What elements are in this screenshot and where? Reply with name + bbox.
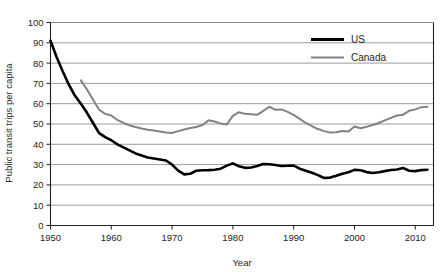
y-tick-label-0: 0 <box>38 220 43 231</box>
legend-label-canada: Canada <box>351 52 386 63</box>
y-tick-label-40: 40 <box>33 139 44 150</box>
y-tick-label-20: 20 <box>33 179 44 190</box>
y-tick-label-10: 10 <box>33 200 44 211</box>
x-tick-label-1980: 1980 <box>222 232 243 243</box>
y-tick-label-100: 100 <box>28 17 44 28</box>
x-tick-label-1960: 1960 <box>101 232 122 243</box>
y-tick-label-30: 30 <box>33 159 44 170</box>
legend-label-us: US <box>351 34 365 45</box>
x-tick-label-2000: 2000 <box>344 232 365 243</box>
x-tick-label-1990: 1990 <box>283 232 304 243</box>
transit-trips-line-chart: 0102030405060708090100 19501960197019801… <box>0 0 447 272</box>
x-tick-label-1970: 1970 <box>162 232 183 243</box>
y-axis-title: Public transit trips per capita <box>3 63 14 183</box>
chart-canvas: 0102030405060708090100 19501960197019801… <box>0 0 447 272</box>
y-tick-label-70: 70 <box>33 78 44 89</box>
y-tick-label-60: 60 <box>33 98 44 109</box>
x-tick-label-2010: 2010 <box>405 232 426 243</box>
y-tick-label-90: 90 <box>33 37 44 48</box>
y-tick-label-80: 80 <box>33 58 44 69</box>
y-tick-label-50: 50 <box>33 118 44 129</box>
x-axis-title: Year <box>232 257 251 268</box>
x-tick-label-1950: 1950 <box>40 232 61 243</box>
